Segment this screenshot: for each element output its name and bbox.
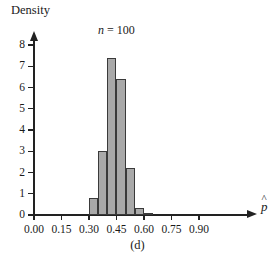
y-axis-tick-label: 6 (10, 82, 25, 94)
x-axis-tick-label: 0.90 (179, 223, 219, 235)
histogram-bar (116, 79, 125, 215)
y-axis-tick-label: 3 (10, 145, 25, 157)
y-axis-tick-label: 5 (10, 103, 25, 115)
histogram-bar (107, 58, 116, 215)
y-axis-tick-label: 8 (10, 39, 25, 51)
histogram-bar (89, 198, 98, 215)
y-axis-tick-label: 4 (10, 124, 25, 136)
plot-area: 012345678 0.000.150.300.450.600.750.90 (0, 0, 275, 258)
histogram-bar (144, 213, 153, 215)
histogram-bar (98, 151, 107, 215)
x-axis-tick (33, 214, 34, 220)
y-axis-tick (28, 172, 34, 173)
y-axis-tick (28, 151, 34, 152)
x-axis-tick (198, 214, 199, 220)
x-axis-tick (61, 214, 62, 220)
y-axis-tick (28, 44, 34, 45)
y-axis-tick (28, 129, 34, 130)
y-axis-tick-label: 7 (10, 60, 25, 72)
y-axis-arrow-icon (30, 31, 38, 41)
histogram-bar (135, 208, 144, 215)
y-axis-tick (28, 66, 34, 67)
figure-caption: (d) (0, 238, 275, 252)
y-axis-tick (28, 108, 34, 109)
y-axis-tick (28, 87, 34, 88)
y-axis-tick-label: 0 (10, 209, 25, 221)
y-axis-tick-label: 2 (10, 167, 25, 179)
histogram-bar (126, 168, 135, 215)
histogram-figure: Density n = 100 012345678 0.000.150.300.… (0, 0, 275, 258)
y-axis-tick (28, 193, 34, 194)
x-axis-arrow-icon (247, 210, 257, 218)
x-axis-tick (171, 214, 172, 220)
y-axis-tick-label: 1 (10, 188, 25, 200)
x-axis-title: p (261, 200, 268, 214)
